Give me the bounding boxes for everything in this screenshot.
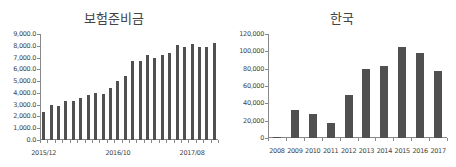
y-tick [37, 81, 40, 82]
x-tick [122, 140, 123, 143]
y-tick-label: 120,000 [239, 30, 264, 38]
y-tick-label: 80,000 [243, 65, 264, 73]
x-tick [107, 140, 108, 143]
x-tick [174, 140, 175, 143]
x-tick [447, 138, 448, 141]
bar [94, 93, 97, 140]
y-tick [37, 58, 40, 59]
bar [213, 43, 216, 140]
bar [309, 114, 317, 138]
y-tick-label: 100,000 [239, 47, 264, 55]
insurance-reserve-chart: 보험준비금 0.01,000.02,000.03,000.04,000.05,0… [0, 0, 228, 167]
x-tick [429, 138, 430, 141]
chart-title: 보험준비금 [0, 8, 228, 27]
y-tick-label: 60,000 [243, 82, 264, 90]
bar [273, 137, 281, 138]
bar [327, 123, 335, 138]
y-tick-label: 6,000.0 [13, 65, 36, 73]
x-tick [114, 140, 115, 143]
x-tick-label: 2009 [287, 147, 302, 155]
bar [64, 101, 67, 140]
bar [109, 88, 112, 140]
x-tick-label: 2015 [395, 147, 410, 155]
bar [72, 101, 75, 140]
x-tick [268, 138, 269, 141]
bar [57, 106, 60, 140]
y-tick-label: 3,000.0 [13, 101, 36, 109]
bar [131, 61, 134, 140]
x-tick-label: 2011 [323, 147, 338, 155]
bar [434, 71, 442, 138]
x-tick [129, 140, 130, 143]
bar [205, 47, 208, 140]
x-tick [151, 140, 152, 143]
bar [116, 81, 119, 140]
y-tick-label: 4,000.0 [13, 89, 36, 97]
y-tick-label: 0.0 [27, 136, 36, 144]
x-tick [322, 138, 323, 141]
y-tick-label: 20,000 [243, 117, 264, 125]
x-tick [85, 140, 86, 143]
bar [191, 44, 194, 140]
y-tick [265, 69, 268, 70]
bar [153, 58, 156, 140]
bar [183, 47, 186, 140]
x-tick-label: 2015/12 [31, 149, 56, 157]
x-tick [92, 140, 93, 143]
y-tick [37, 69, 40, 70]
x-tick-label: 2017 [430, 147, 445, 155]
x-tick [40, 140, 41, 143]
x-tick-label: 2008 [269, 147, 284, 155]
x-tick [358, 138, 359, 141]
y-axis [40, 34, 41, 140]
x-tick [70, 140, 71, 143]
x-tick [340, 138, 341, 141]
y-tick [37, 128, 40, 129]
y-tick [265, 51, 268, 52]
x-tick-label: 2013 [359, 147, 374, 155]
x-tick-label: 2016/10 [105, 149, 130, 157]
x-tick [47, 140, 48, 143]
x-tick [159, 140, 160, 143]
bar [176, 45, 179, 140]
x-tick [55, 140, 56, 143]
x-tick [196, 140, 197, 143]
y-tick-label: 1,000.0 [13, 124, 36, 132]
bar [398, 47, 406, 138]
y-tick [37, 116, 40, 117]
y-tick [265, 86, 268, 87]
chart-title: 한국 [228, 8, 456, 27]
bar [291, 110, 299, 138]
x-tick [99, 140, 100, 143]
bar [79, 98, 82, 140]
bar [161, 55, 164, 140]
y-tick-label: 5,000.0 [13, 77, 36, 85]
plot-area: 020,00040,00060,00080,000100,000120,0002… [268, 34, 447, 138]
x-tick [136, 140, 137, 143]
x-tick [166, 140, 167, 143]
x-tick [62, 140, 63, 143]
x-tick-label: 2014 [377, 147, 392, 155]
y-tick-label: 7,000.0 [13, 54, 36, 62]
x-tick [218, 140, 219, 143]
x-tick-label: 2016 [412, 147, 427, 155]
bar [124, 76, 127, 140]
y-tick-label: 8,000.0 [13, 42, 36, 50]
bar [146, 55, 149, 140]
y-tick [265, 103, 268, 104]
x-tick-label: 2017/08 [180, 149, 205, 157]
bar [87, 95, 90, 140]
bar [198, 47, 201, 140]
y-tick-label: 2,000.0 [13, 112, 36, 120]
x-tick [188, 140, 189, 143]
x-tick [203, 140, 204, 143]
bar [380, 66, 388, 138]
bar [102, 94, 105, 140]
x-tick-label: 2010 [305, 147, 320, 155]
y-tick [37, 105, 40, 106]
x-tick [393, 138, 394, 141]
korea-chart: 한국 020,00040,00060,00080,000100,000120,0… [228, 0, 456, 167]
x-tick [181, 140, 182, 143]
x-tick [144, 140, 145, 143]
bar [345, 95, 353, 138]
